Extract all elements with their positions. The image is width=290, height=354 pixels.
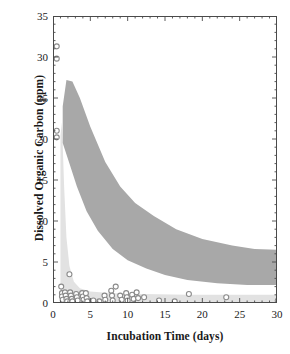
x-tick-label: 10 xyxy=(113,309,143,320)
y-axis-tick-labels: 05101520253035 xyxy=(20,0,48,354)
y-tick-label: 0 xyxy=(22,298,48,309)
data-point-open xyxy=(109,288,114,293)
x-tick-label: 0 xyxy=(38,309,68,320)
x-tick-label: 30 xyxy=(262,309,290,320)
plot-canvas xyxy=(53,16,277,303)
data-point-open xyxy=(113,284,118,289)
x-tick-label: 5 xyxy=(75,309,105,320)
x-axis-title: Incubation Time (days) xyxy=(53,330,277,342)
data-point-open xyxy=(136,296,141,301)
data-point-open xyxy=(224,295,229,300)
data-point-open xyxy=(59,284,64,289)
y-tick-label: 5 xyxy=(22,257,48,268)
data-point-open xyxy=(109,293,114,298)
y-tick-label: 10 xyxy=(22,216,48,227)
y-tick-label: 15 xyxy=(22,175,48,186)
y-tick-label: 35 xyxy=(22,11,48,22)
figure-scatter-doc-vs-incubation-time: Dissolved Organic Carbon (ppm) 051015202… xyxy=(0,0,290,354)
y-tick-label: 20 xyxy=(22,134,48,145)
plot-area xyxy=(53,16,277,303)
data-point-open xyxy=(142,295,147,300)
x-tick-label: 15 xyxy=(150,309,180,320)
x-tick-label: 25 xyxy=(225,309,255,320)
x-axis-tick-labels: 051015202530 xyxy=(0,309,290,325)
data-point-open xyxy=(134,290,139,295)
data-point-open xyxy=(83,291,88,296)
caption-sliver xyxy=(2,345,152,354)
y-tick-label: 30 xyxy=(22,52,48,63)
x-tick-label: 20 xyxy=(187,309,217,320)
data-point-open xyxy=(67,272,72,277)
data-point-open xyxy=(54,44,59,49)
data-point-open xyxy=(186,291,191,296)
y-tick-label: 25 xyxy=(22,93,48,104)
